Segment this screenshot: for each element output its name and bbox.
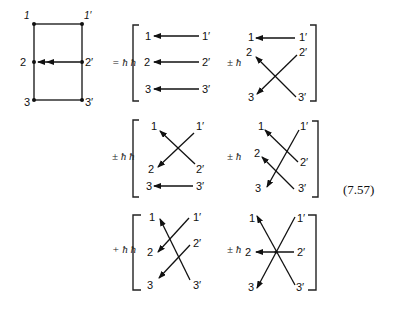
node-1: 1: [258, 120, 264, 132]
term-row-1: = ħ ħ 1 2 3 1′ 2′ 3′ ± ħ 1 2 3 1′ 2′ 3′: [112, 25, 316, 103]
coefficient-6: ± ħ: [227, 243, 242, 255]
arrow-icon: [262, 157, 294, 189]
node-1p: 1′: [196, 120, 204, 132]
ref-label-3p: 3′: [85, 96, 93, 108]
right-bracket: [310, 25, 316, 101]
arrow-icon: [265, 130, 298, 162]
node-3: 3: [147, 279, 153, 291]
node-1: 1: [149, 211, 155, 223]
arrow-icon: [158, 133, 194, 167]
node-2: 2: [144, 56, 150, 68]
coefficient-2: ± ħ: [227, 56, 242, 68]
node-2: 2: [246, 46, 252, 58]
reference-diagram: 1 1′ 2 2′ 3 3′: [20, 10, 93, 108]
node-3p: 3′: [196, 180, 204, 192]
ref-label-2p: 2′: [85, 56, 93, 68]
coefficient-4: ± ħ: [227, 150, 242, 162]
node-1p: 1′: [202, 30, 210, 42]
node-2p: 2′: [193, 237, 201, 249]
node-2p: 2′: [300, 156, 308, 168]
node-1: 1: [151, 120, 157, 132]
equation-number: (7.57): [343, 182, 374, 197]
node-3: 3: [248, 91, 254, 103]
node-3p: 3′: [202, 83, 210, 95]
node-3p: 3′: [193, 279, 201, 291]
arrow-icon: [257, 55, 297, 94]
node-2p: 2′: [297, 246, 305, 258]
node-3: 3: [146, 180, 152, 192]
node-2p: 2′: [202, 56, 210, 68]
arrow-icon: [256, 57, 296, 97]
node-1: 1: [248, 31, 254, 43]
node-3: 3: [145, 83, 151, 95]
node-2p: 2′: [196, 163, 204, 175]
coefficient-3: ± ħ ħ: [112, 150, 135, 162]
node-2: 2: [254, 147, 260, 159]
term-row-3: + ħ ħ 1 2 3 1′ 2′ 3′ ± ħ 1 2 3 1′ 2′ 3′: [112, 211, 316, 293]
node-1p: 1′: [193, 211, 201, 223]
node-1: 1: [249, 212, 255, 224]
node-2: 2: [147, 246, 153, 258]
right-bracket: [312, 121, 318, 197]
node-2: 2: [148, 163, 154, 175]
node-2: 2: [245, 246, 251, 258]
node-2p: 2′: [299, 46, 307, 58]
ref-label-2: 2: [20, 56, 26, 68]
diagram-canvas: 1 1′ 2 2′ 3 3′ = ħ ħ 1 2 3 1′ 2′ 3′ ± ħ …: [0, 0, 397, 310]
ref-label-1p: 1′: [84, 10, 93, 21]
node-3: 3: [248, 281, 254, 293]
node-1p: 1′: [300, 120, 308, 132]
node-1p: 1′: [297, 212, 305, 224]
node-3p: 3′: [296, 281, 304, 293]
node-3p: 3′: [298, 91, 306, 103]
node-1p: 1′: [299, 31, 307, 43]
node-3p: 3′: [298, 182, 306, 194]
term-row-2: ± ħ ħ 1 2 3 1′ 2′ 3′ ± ħ 1 2 3 1′ 2′ 3′: [112, 120, 318, 197]
node-3: 3: [255, 182, 261, 194]
ref-label-3: 3: [24, 96, 30, 108]
right-bracket: [308, 215, 316, 290]
node-1: 1: [145, 30, 151, 42]
ref-label-1: 1: [24, 10, 30, 21]
arrow-icon: [160, 131, 195, 164]
